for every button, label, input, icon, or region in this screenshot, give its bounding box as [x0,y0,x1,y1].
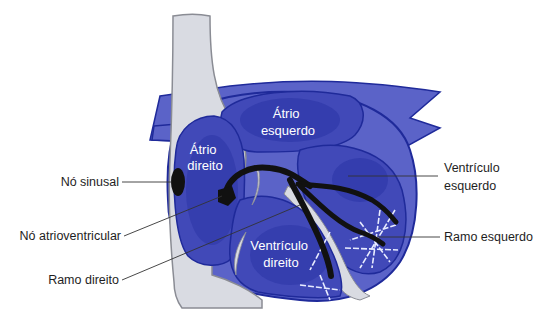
heart-conduction-diagram: Átrio esquerdo Átrio direito Ventrículo … [0,0,549,322]
callout-no-sinusal: Nó sinusal [61,175,119,189]
sinoatrial-node [171,168,185,196]
heart-illustration: Átrio esquerdo Átrio direito Ventrículo … [0,0,549,322]
callout-ramo-direito: Ramo direito [48,273,119,287]
callout-ventriculo-esquerdo: Ventrículo esquerdo [444,161,503,193]
callout-ramo-esquerdo: Ramo esquerdo [444,230,533,244]
label-atrio-direito: Átrio direito [187,142,222,173]
callout-no-atrioventricular: Nó atrioventricular [20,229,121,243]
